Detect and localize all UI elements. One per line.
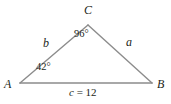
vertex-label-a: A [4,78,11,90]
triangle-figure: A B C 42° 96° a b c = 12 [0,0,171,104]
angle-label-c: 96° [74,29,89,40]
vertex-label-b: B [157,78,164,90]
side-c-separator: = [74,86,86,98]
side-label-c: c = 12 [69,87,97,98]
side-c-value: 12 [86,86,97,98]
side-label-a: a [126,36,132,48]
vertex-label-c: C [84,4,92,16]
side-label-b: b [43,37,49,49]
angle-label-a: 42° [36,62,51,73]
side-a-line [88,25,152,83]
